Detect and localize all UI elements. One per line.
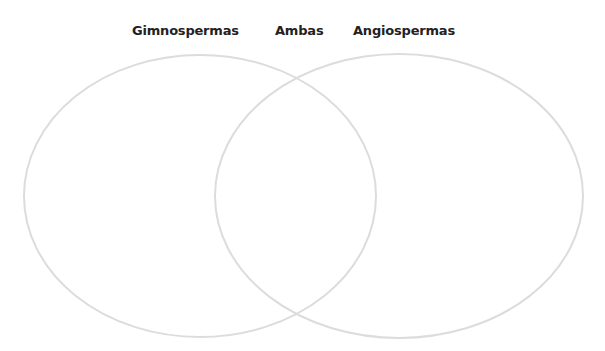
gimnospermas-circle — [24, 55, 376, 337]
venn-diagram — [0, 0, 605, 351]
angiospermas-circle — [215, 54, 583, 338]
